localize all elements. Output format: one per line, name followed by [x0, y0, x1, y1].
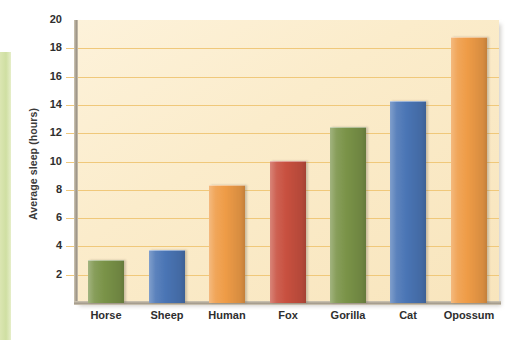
bar [330, 127, 366, 303]
bar-chart: 2468101214161820 HorseSheepHumanFoxGoril… [0, 0, 528, 340]
bar [149, 250, 185, 303]
bar [390, 101, 426, 303]
y-axis-tick-label: 20 [22, 14, 62, 25]
bar [270, 161, 306, 303]
bar [451, 37, 487, 303]
x-axis-label-opossum: Opossum [419, 309, 519, 321]
bar [209, 185, 245, 303]
bar-series [76, 20, 499, 303]
y-axis-tick-label: 2 [22, 269, 62, 280]
y-axis-tick-label: 18 [22, 42, 62, 53]
y-axis-title: Average sleep (hours) [27, 69, 39, 259]
bar [88, 260, 124, 303]
